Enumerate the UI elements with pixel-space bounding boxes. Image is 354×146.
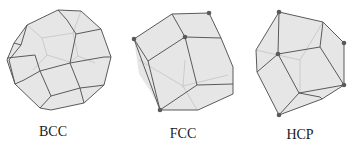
fcc-vertex-dot [207,11,212,16]
hcp-vertex-dot [342,41,347,46]
hcp-vertex-dot [277,10,282,15]
fcc-vertex-dot [183,35,188,40]
fcc-polyhedron [132,11,233,113]
hcp-label: HCP [286,127,313,143]
hcp-vertex-dot [277,113,282,118]
bcc-label: BCC [39,124,67,140]
hcp-vertex-dot [342,83,347,88]
hcp-polyhedron [256,10,346,118]
hcp-vertex-dot [276,52,281,57]
fcc-vertex-dot [158,108,163,113]
fcc-label: FCC [170,126,196,142]
bcc-polyhedron [7,10,111,110]
wigner-seitz-cells-figure: BCC FCC HCP [0,0,354,146]
fcc-vertex-dot [132,37,137,42]
